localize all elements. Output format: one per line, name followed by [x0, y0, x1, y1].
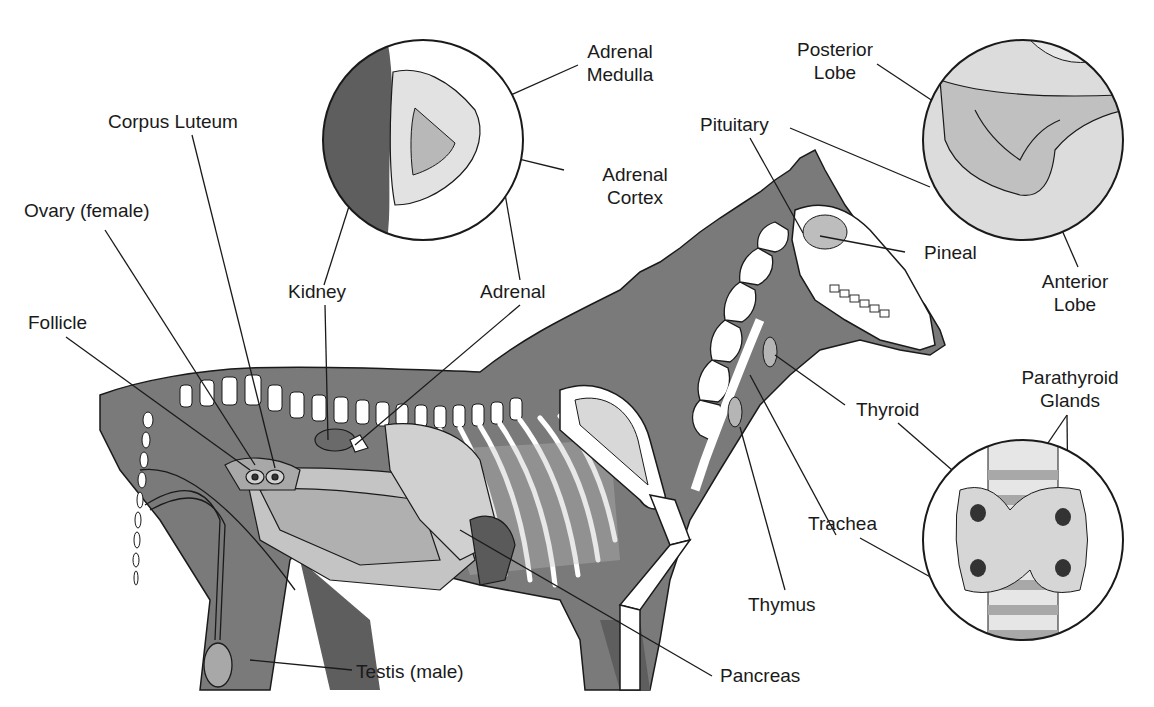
label-adrenal-cortex: Adrenal Cortex: [580, 163, 690, 209]
label-corpus-luteum: Corpus Luteum: [108, 110, 238, 133]
label-line: Adrenal: [560, 40, 680, 63]
label-ovary: Ovary (female): [24, 199, 150, 222]
label-anterior-lobe: Anterior Lobe: [1030, 270, 1120, 316]
label-adrenal: Adrenal: [480, 280, 546, 303]
thymus-gland: [728, 397, 742, 427]
label-kidney: Kidney: [288, 280, 346, 303]
label-parathyroid-glands: Parathyroid Glands: [1005, 366, 1135, 412]
thyroid-gland: [763, 337, 777, 367]
label-line: Medulla: [560, 63, 680, 86]
label-line: Adrenal: [580, 163, 690, 186]
label-line: Lobe: [790, 61, 880, 84]
label-trachea: Trachea: [808, 512, 877, 535]
label-thyroid: Thyroid: [856, 398, 919, 421]
brain-region: [803, 215, 847, 249]
label-posterior-lobe: Posterior Lobe: [790, 38, 880, 84]
label-line: Anterior: [1030, 270, 1120, 293]
label-adrenal-medulla: Adrenal Medulla: [560, 40, 680, 86]
label-line: Glands: [1005, 389, 1135, 412]
endocrine-diagram: Adrenal Medulla Corpus Luteum Adrenal Co…: [0, 0, 1154, 707]
pituitary-inset: [923, 40, 1125, 240]
label-pancreas: Pancreas: [720, 664, 800, 687]
label-line: Parathyroid: [1005, 366, 1135, 389]
horse-illustration: [0, 0, 1154, 707]
label-line: Cortex: [580, 186, 690, 209]
adrenal-inset: [300, 30, 523, 250]
label-pituitary: Pituitary: [700, 113, 769, 136]
label-follicle: Follicle: [28, 311, 87, 334]
label-line: Lobe: [1030, 293, 1120, 316]
label-testis: Testis (male): [356, 660, 464, 683]
label-thymus: Thymus: [748, 593, 816, 616]
label-line: Posterior: [790, 38, 880, 61]
label-pineal: Pineal: [924, 241, 977, 264]
thyroid-inset: [923, 440, 1123, 650]
